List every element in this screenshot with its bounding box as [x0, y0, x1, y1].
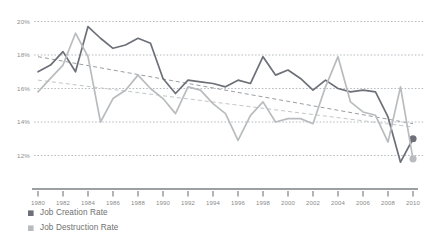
legend-item-label: Job Creation Rate: [40, 208, 108, 217]
x-axis-tick-label: 1984: [81, 200, 95, 206]
legend: Job Creation RateJob Destruction Rate: [28, 208, 119, 232]
x-axis-tick-label: 1986: [106, 200, 120, 206]
data-series-group: [38, 27, 417, 163]
series-line: [38, 27, 413, 163]
x-axis-tick-label: 1990: [156, 200, 170, 206]
x-axis-tick-label: 2004: [331, 200, 345, 206]
y-axis-tick-label: 12%: [17, 152, 30, 159]
legend-item-label: Job Destruction Rate: [40, 223, 119, 232]
x-axis-tick-label: 1996: [231, 200, 245, 206]
chart-container: 20%18%16%14%12%1980198219841986198819901…: [0, 0, 429, 243]
y-axis-tick-label: 16%: [17, 85, 30, 92]
y-axis-tick-label: 18%: [17, 51, 30, 58]
x-axis-tick-label: 1994: [206, 200, 220, 206]
series-end-marker: [409, 155, 416, 162]
x-axis-tick-label: 2006: [356, 200, 370, 206]
legend-swatch: [28, 210, 34, 216]
legend-swatch: [28, 225, 34, 231]
x-axis-tick-label: 1998: [256, 200, 270, 206]
line-chart: 20%18%16%14%12%1980198219841986198819901…: [0, 0, 429, 243]
y-axis-tick-label: 20%: [17, 18, 30, 25]
x-axis-tick-label: 1982: [56, 200, 70, 206]
x-axis-tick-label: 1988: [131, 200, 145, 206]
series-line: [38, 33, 413, 159]
y-axis-tick-label: 14%: [17, 118, 30, 125]
x-axis-tick-label: 2002: [306, 200, 320, 206]
x-axis: 1980198219841986198819901992199419961998…: [31, 189, 420, 206]
x-axis-tick-label: 2008: [381, 200, 395, 206]
x-axis-tick-label: 2010: [406, 200, 420, 206]
x-axis-tick-label: 1980: [31, 200, 45, 206]
x-axis-tick-label: 2000: [281, 200, 295, 206]
x-axis-tick-label: 1992: [181, 200, 195, 206]
